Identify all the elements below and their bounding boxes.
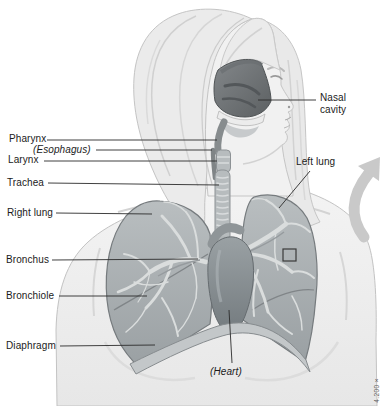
label-pharynx: Pharynx xyxy=(9,133,46,145)
label-right-lung: Right lung xyxy=(7,207,53,219)
figure-credit: 4.200× xyxy=(373,377,380,403)
label-left-lung: Left lung xyxy=(296,156,335,168)
label-esophagus: (Esophagus) xyxy=(33,144,91,156)
label-bronchus: Bronchus xyxy=(6,254,49,266)
esophagus-tube xyxy=(213,150,215,178)
larynx-shape xyxy=(217,150,231,172)
label-nasal-cavity: Nasal cavity xyxy=(320,92,370,115)
label-larynx: Larynx xyxy=(8,154,39,166)
label-trachea: Trachea xyxy=(7,177,44,189)
zoom-arrow xyxy=(354,157,380,237)
label-diaphragm: Diaphragm xyxy=(6,340,56,352)
label-bronchiole: Bronchiole xyxy=(6,290,54,302)
nostril xyxy=(288,106,290,108)
anatomy-illustration xyxy=(0,0,381,406)
label-heart: (Heart) xyxy=(210,366,242,378)
respiratory-system-diagram: Pharynx (Esophagus) Larynx Trachea Right… xyxy=(0,0,381,406)
